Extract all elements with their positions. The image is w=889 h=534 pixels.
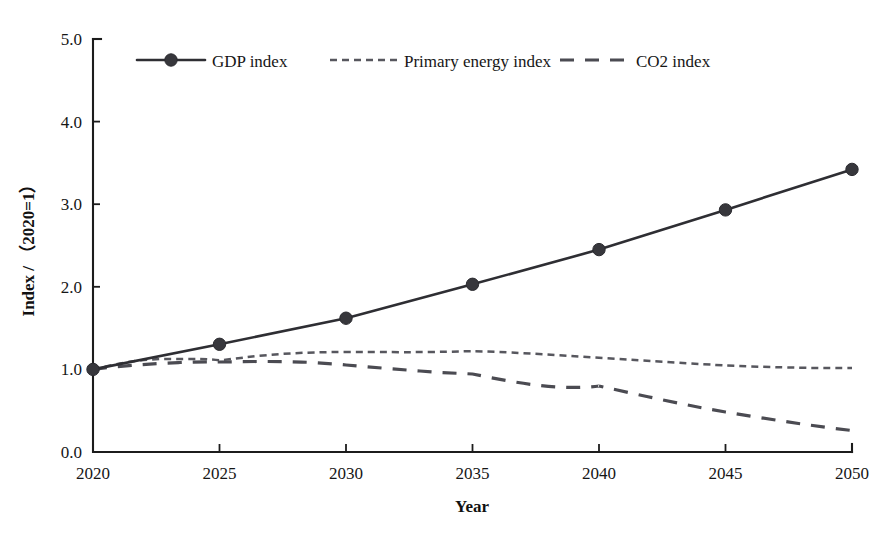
gdp-marker-2045 xyxy=(719,204,731,216)
x-tick-label-1: 2025 xyxy=(203,464,237,483)
gdp-marker-2025 xyxy=(213,338,225,350)
x-tick-label-2: 2030 xyxy=(329,464,363,483)
y-tick-label-4: 4.0 xyxy=(61,113,82,132)
legend-label-gdp-index: GDP index xyxy=(212,52,288,71)
gdp-marker-2040 xyxy=(593,243,605,255)
gdp-marker-2030 xyxy=(340,312,352,324)
y-tick-label-3: 3.0 xyxy=(61,195,82,214)
y-tick-label-2: 2.0 xyxy=(61,278,82,297)
x-axis-title: Year xyxy=(455,497,489,516)
x-tick-label-4: 2040 xyxy=(582,464,616,483)
x-tick-label-5: 2045 xyxy=(709,464,743,483)
y-tick-label-0: 0.0 xyxy=(61,443,82,462)
gdp-marker-2050 xyxy=(846,163,858,175)
chart-background xyxy=(0,0,889,534)
legend-label-primary-energy-index: Primary energy index xyxy=(404,52,551,71)
y-tick-label-5: 5.0 xyxy=(61,30,82,49)
y-axis-title: Index / （2020=1） xyxy=(18,176,38,317)
chart-figure: 0.0 1.0 2.0 3.0 4.0 5.0 2020 2025 2030 2… xyxy=(0,0,889,534)
line-chart: 0.0 1.0 2.0 3.0 4.0 5.0 2020 2025 2030 2… xyxy=(0,0,889,534)
x-tick-label-0: 2020 xyxy=(76,464,110,483)
y-tick-label-1: 1.0 xyxy=(61,360,82,379)
gdp-marker-2035 xyxy=(466,278,478,290)
gdp-marker-2020 xyxy=(87,363,99,375)
legend-gdp-marker-icon xyxy=(165,54,177,66)
x-tick-label-6: 2050 xyxy=(835,464,869,483)
legend-label-co2-index: CO2 index xyxy=(636,52,711,71)
x-tick-label-3: 2035 xyxy=(456,464,490,483)
